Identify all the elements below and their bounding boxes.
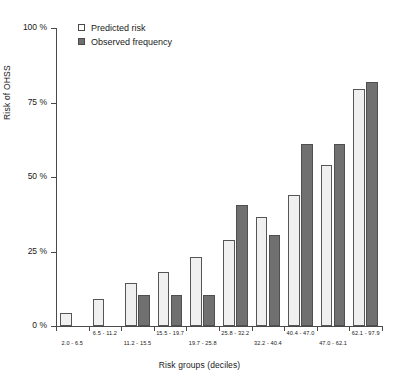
y-tick-label: 75 % [3, 97, 47, 107]
bar-predicted [288, 195, 300, 326]
x-tick-label: 32.2 - 40.4 [244, 340, 292, 346]
legend-item-predicted: Predicted risk [78, 22, 172, 33]
ohss-calibration-bar-chart: Risk of OHSS 0 %25 %50 %75 %100 % 2.0 - … [0, 0, 399, 382]
legend-label-predicted: Predicted risk [91, 23, 146, 33]
bar-predicted [256, 217, 268, 326]
x-tick-mark [317, 326, 318, 331]
x-tick-mark [121, 326, 122, 331]
bar-predicted [321, 165, 333, 326]
bar-predicted [190, 257, 202, 326]
bar-observed [236, 205, 248, 326]
plot-area [56, 28, 382, 326]
x-tick-label: 2.0 - 6.5 [48, 340, 96, 346]
bar-predicted [93, 299, 105, 326]
legend-swatch-predicted-icon [78, 24, 85, 31]
legend-item-observed: Observed frequency [78, 36, 172, 47]
bar-observed [203, 295, 215, 326]
legend-label-observed: Observed frequency [91, 37, 172, 47]
legend-swatch-observed-icon [78, 38, 85, 45]
bar-observed [138, 295, 150, 326]
bar-predicted [223, 240, 235, 326]
bar-observed [334, 144, 346, 326]
x-tick-mark [382, 326, 383, 331]
chart-legend: Predicted risk Observed frequency [78, 22, 172, 50]
bar-observed [171, 295, 183, 326]
bar-observed [301, 144, 313, 326]
bar-predicted [60, 313, 72, 326]
x-tick-mark [186, 326, 187, 331]
x-tick-label: 19.7 - 25.8 [179, 340, 227, 346]
x-tick-mark [252, 326, 253, 331]
bar-predicted [158, 272, 170, 326]
y-tick-label: 50 % [3, 171, 47, 181]
bar-observed [366, 82, 378, 326]
y-tick-label: 100 % [3, 22, 47, 32]
bar-observed [269, 235, 281, 326]
y-tick-label: 25 % [3, 246, 47, 256]
x-tick-label: 11.2 - 15.5 [114, 340, 162, 346]
x-tick-mark [56, 326, 57, 331]
x-axis-title: Risk groups (deciles) [0, 360, 399, 370]
x-tick-label: 47.0 - 62.1 [309, 340, 357, 346]
bar-predicted [125, 283, 137, 326]
bar-predicted [353, 89, 365, 326]
y-tick-label: 0 % [3, 320, 47, 330]
